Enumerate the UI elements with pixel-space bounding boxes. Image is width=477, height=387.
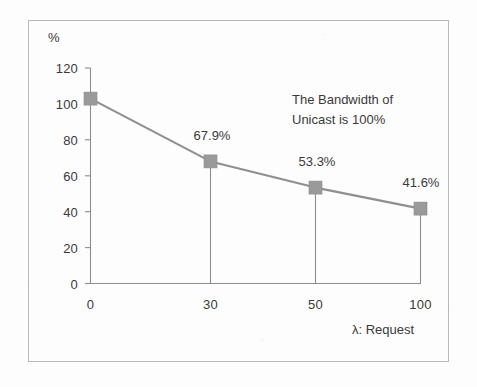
data-point-marker (414, 202, 427, 215)
data-point-label-50: 53.3% (299, 154, 336, 169)
data-point-marker (204, 155, 217, 168)
drop-lines (211, 161, 421, 283)
y-tick-label-40: 40 (44, 204, 78, 219)
y-tick-label-80: 80 (44, 132, 78, 147)
y-tick-label-100: 100 (44, 96, 78, 111)
x-tick-label-30: 30 (203, 297, 218, 312)
data-point-label-30: 67.9% (194, 128, 231, 143)
chart-figure: % 120 100 80 60 40 20 0 0 30 50 100 λ: R… (0, 0, 477, 387)
x-tick-label-100: 100 (409, 297, 431, 312)
y-tick-label-0: 0 (44, 276, 78, 291)
x-tick-label-0: 0 (87, 297, 94, 312)
y-tick-label-20: 20 (44, 240, 78, 255)
data-point-marker (84, 92, 97, 105)
x-tick-label-50: 50 (308, 297, 323, 312)
chart-annotation: The Bandwidth of Unicast is 100% (292, 90, 393, 130)
x-axis-title: λ: Request (352, 322, 414, 337)
y-tick-label-120: 120 (44, 61, 78, 76)
y-axis-unit-label: % (48, 30, 60, 45)
annotation-line-2: Unicast is 100% (292, 110, 393, 130)
data-point-marker (309, 181, 322, 194)
y-tick-label-60: 60 (44, 168, 78, 183)
annotation-line-1: The Bandwidth of (292, 90, 393, 110)
data-point-label-100: 41.6% (403, 175, 440, 190)
